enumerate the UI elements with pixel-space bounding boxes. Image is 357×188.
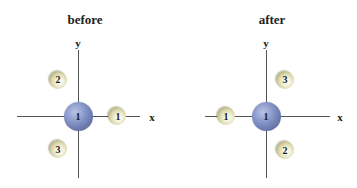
after-panel: after y x 1 1 3 2 bbox=[0, 0, 178, 188]
y-axis-label: y bbox=[263, 37, 269, 49]
ligand-1-label: 1 bbox=[224, 112, 229, 122]
x-axis-label: x bbox=[337, 111, 343, 123]
ligand-2-label: 2 bbox=[283, 146, 288, 156]
panel-title: after bbox=[259, 12, 286, 28]
center-atom-label: 1 bbox=[264, 112, 269, 122]
ligand-3-label: 3 bbox=[283, 75, 288, 85]
